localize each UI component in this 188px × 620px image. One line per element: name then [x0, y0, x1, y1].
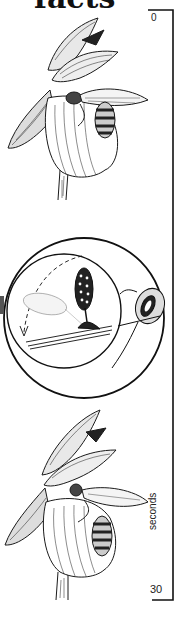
timeline-end-label: 30: [150, 583, 162, 595]
timeline-start-label: 0: [151, 12, 157, 23]
orchid-bottom-illustration: [5, 410, 148, 600]
illustration-canvas: [0, 0, 188, 620]
pollinia-inset: [0, 238, 169, 398]
timeline-unit-label: seconds: [147, 470, 159, 530]
orchid-top-illustration: [8, 18, 148, 200]
bee-head-detail: [112, 284, 169, 368]
